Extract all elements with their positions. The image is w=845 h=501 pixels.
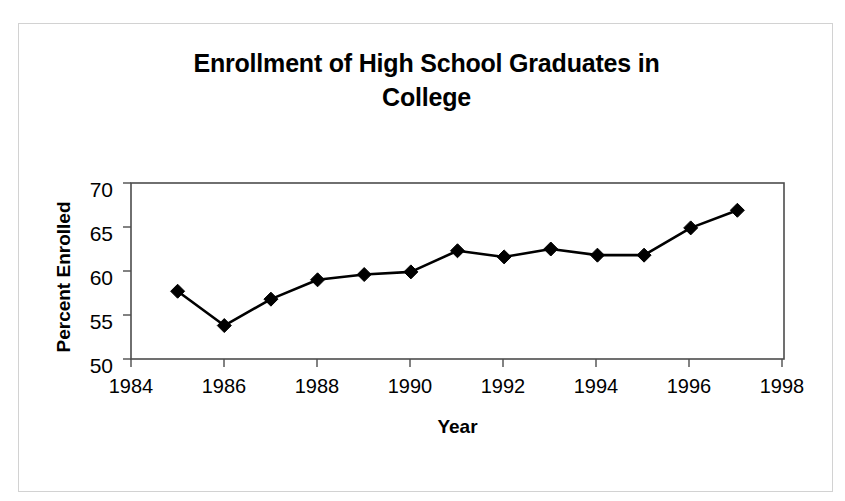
- chart-card: Enrollment of High School Graduates in C…: [18, 23, 833, 492]
- line-chart-svg: [19, 24, 834, 493]
- plot-frame: [131, 183, 784, 359]
- plot-area: Percent Enrolled Year 70 65 60 55 50 198…: [19, 24, 834, 493]
- x-axis-ticks: [131, 359, 782, 367]
- y-axis-ticks: [123, 183, 131, 359]
